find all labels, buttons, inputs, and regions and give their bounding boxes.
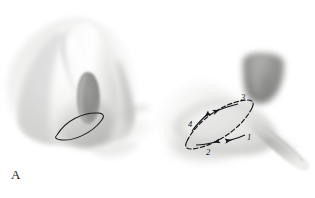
step-number-1: 1 [247, 132, 251, 142]
surgical-illustration-figure: 1 2 3 4 A [0, 0, 315, 198]
right-panel-ala-closeup: 1 2 3 4 [160, 53, 309, 170]
panel-label-a: A [11, 168, 20, 181]
left-panel-nose-overview [7, 18, 154, 157]
illustration-canvas: 1 2 3 4 [0, 0, 315, 198]
step-number-3: 3 [240, 92, 245, 102]
